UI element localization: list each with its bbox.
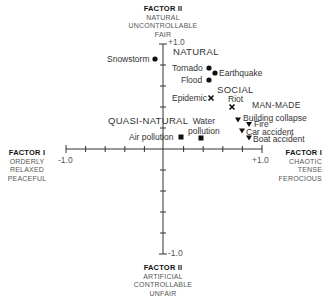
group-man-made: MAN-MADE xyxy=(252,100,301,110)
factor1-axis xyxy=(66,145,262,153)
axis-pole-label: PEACEFUL xyxy=(4,175,50,184)
water-pollution-marker xyxy=(199,136,204,141)
tornado-marker xyxy=(206,65,211,70)
label-air-pollution: Air pollution xyxy=(129,132,173,142)
tick-left: -1.0 xyxy=(58,155,73,165)
axis-pole-label: TENSE xyxy=(272,166,322,175)
flood-marker xyxy=(206,77,211,82)
axis-pole-label: FEROCIOUS xyxy=(272,175,322,184)
earthquake-marker xyxy=(212,70,217,75)
axis-pole-label: UNCONTROLLABLE xyxy=(111,22,215,31)
label-water-pollution: Water pollution xyxy=(188,117,220,136)
axis-pole-label: CHAOTIC xyxy=(272,158,322,167)
group-natural: NATURAL xyxy=(173,46,219,57)
air-pollution-marker xyxy=(179,135,184,140)
factor1-right-title: FACTOR I CHAOTIC TENSE FEROCIOUS xyxy=(272,149,322,183)
building-collapse-marker xyxy=(235,118,241,123)
label-water-pollution-line: pollution xyxy=(188,127,220,137)
axis-pole-label: UNFAIR xyxy=(111,290,215,299)
car-accident-marker xyxy=(239,129,245,134)
label-epidemic: Epidemic xyxy=(172,93,207,103)
axis-title-text: FACTOR II xyxy=(111,5,215,14)
factor2-bottom-title: FACTOR II ARTIFICIAL CONTROLLABLE UNFAIR xyxy=(111,264,215,298)
factor1-left-title: FACTOR I ORDERLY RELAXED PEACEFUL xyxy=(4,149,50,183)
label-earthquake: Earthquake xyxy=(219,68,262,78)
group-quasi-natural: QUASI-NATURAL xyxy=(108,115,188,126)
axis-pole-label: ARTIFICIAL xyxy=(111,273,215,282)
factor-diagram: FACTOR II NATURAL UNCONTROLLABLE FAIR FA… xyxy=(0,0,324,300)
label-boat-accident: Boat accident xyxy=(253,134,305,144)
label-riot: Riot xyxy=(228,94,243,104)
axis-pole-label: ORDERLY xyxy=(4,158,50,167)
label-snowstorm: Snowstorm xyxy=(107,54,150,64)
label-tornado: Tornado xyxy=(172,63,203,73)
axis-pole-label: NATURAL xyxy=(111,14,215,23)
axis-pole-label: RELAXED xyxy=(4,166,50,175)
tick-bottom: -1.0 xyxy=(168,248,183,258)
label-building-collapse: Building collapse xyxy=(243,113,307,123)
epidemic-marker xyxy=(209,96,214,101)
axis-title-text: FACTOR II xyxy=(111,264,215,273)
factor2-top-title: FACTOR II NATURAL UNCONTROLLABLE FAIR xyxy=(111,5,215,39)
axis-pole-label: CONTROLLABLE xyxy=(111,281,215,290)
snowstorm-marker xyxy=(152,56,157,61)
axis-title-text: FACTOR I xyxy=(4,149,50,158)
axis-title-text: FACTOR I xyxy=(272,149,322,158)
riot-marker xyxy=(230,105,235,110)
axis-pole-label: FAIR xyxy=(111,31,215,40)
label-flood: Flood xyxy=(181,75,202,85)
tick-right: +1.0 xyxy=(252,155,269,165)
